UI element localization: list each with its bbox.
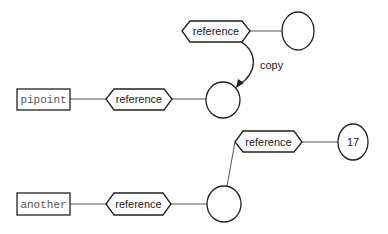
- obj-bottom-node: [207, 186, 241, 222]
- ref-bottom-label: reference: [115, 198, 161, 210]
- ref-top-node: reference: [182, 21, 250, 42]
- another-node: another: [17, 193, 70, 215]
- obj-17-node: 17: [338, 124, 368, 160]
- edge-circle-to-ref-low-right: [227, 142, 235, 186]
- ref-mid-node: reference: [106, 89, 172, 110]
- pipoint-node: pipoint: [17, 89, 70, 110]
- obj-17-label: 17: [347, 136, 359, 148]
- ref-mid-label: reference: [116, 93, 162, 105]
- pipoint-label: pipoint: [20, 94, 66, 106]
- connectors: [70, 31, 338, 204]
- reference-diagram: copy reference pipoint reference referen…: [0, 0, 388, 234]
- circle-shape: [206, 82, 240, 118]
- ref-top-label: reference: [193, 25, 239, 37]
- obj-mid-node: [206, 82, 240, 118]
- ref-low-right-label: reference: [245, 136, 291, 148]
- obj-top-right-node: [282, 12, 314, 50]
- another-label: another: [20, 199, 66, 211]
- circle-shape: [282, 12, 314, 50]
- copy-arrow: copy: [236, 41, 284, 88]
- ref-bottom-node: reference: [106, 193, 171, 215]
- copy-arc: [239, 41, 253, 85]
- arrowhead-icon: [236, 79, 244, 88]
- circle-shape: [207, 186, 241, 222]
- copy-label: copy: [260, 59, 284, 71]
- ref-low-right-node: reference: [235, 131, 302, 152]
